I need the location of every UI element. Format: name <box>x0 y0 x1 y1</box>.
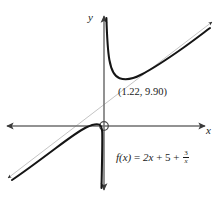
function-equation-label: f(x) = 2x + 5 + 3x <box>116 150 189 166</box>
graph-figure: y x (1.22, 9.90) f(x) = 2x + 5 + 3x <box>0 0 223 199</box>
curve-left-branch <box>12 124 102 188</box>
function-equals: = <box>131 151 143 163</box>
function-plus-one: + <box>153 151 165 163</box>
y-axis-label: y <box>88 12 93 23</box>
function-plot <box>0 0 223 199</box>
function-fraction: 3x <box>183 150 189 166</box>
fraction-denominator: x <box>183 158 189 165</box>
function-linear-term: 2x <box>143 151 153 163</box>
minimum-point-label: (1.22, 9.90) <box>118 87 167 98</box>
function-plus-two: + <box>171 151 183 163</box>
curve-right-branch <box>106 18 210 79</box>
x-axis-label: x <box>206 125 211 136</box>
function-lhs: f(x) <box>116 151 131 163</box>
